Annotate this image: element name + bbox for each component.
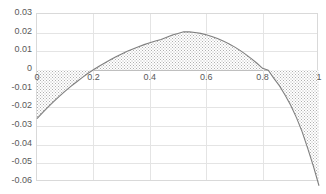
y-axis-tick-label: 0.03 xyxy=(0,8,32,17)
area-fill xyxy=(37,32,319,186)
x-axis-tick-label: 1 xyxy=(309,73,326,82)
y-axis-tick-label: -0.04 xyxy=(0,139,32,148)
y-axis-tick-label: -0.05 xyxy=(0,157,32,166)
y-axis-tick-label: -0.01 xyxy=(0,83,32,92)
plot-area: 00.20.40.60.81 xyxy=(36,13,318,181)
y-axis-tick-label: -0.02 xyxy=(0,101,32,110)
chart-container: 0.030.020.010-0.01-0.02-0.03-0.04-0.05-0… xyxy=(0,0,326,194)
x-axis-tick-label: 0.8 xyxy=(253,73,273,82)
y-axis-tick-label: 0 xyxy=(0,64,32,73)
y-axis-tick-label: -0.06 xyxy=(0,176,32,185)
data-series-curve xyxy=(37,14,319,182)
x-axis-tick-label: 0.6 xyxy=(196,73,216,82)
y-axis-tick-label: 0.02 xyxy=(0,27,32,36)
y-axis-tick-label: -0.03 xyxy=(0,120,32,129)
x-axis-tick-label: 0 xyxy=(27,73,47,82)
x-axis-tick-label: 0.4 xyxy=(140,73,160,82)
y-axis-tick-label: 0.01 xyxy=(0,45,32,54)
area-fill-path xyxy=(37,32,319,186)
x-axis-tick-label: 0.2 xyxy=(83,73,103,82)
